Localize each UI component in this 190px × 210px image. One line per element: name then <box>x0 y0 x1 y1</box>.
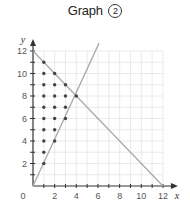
lattice-point <box>53 117 56 120</box>
lattice-point <box>42 106 45 109</box>
y-tick-label: 4 <box>22 136 27 146</box>
lattice-point <box>42 94 45 97</box>
x-tick-label: 12 <box>158 191 168 201</box>
lattice-point <box>42 72 45 75</box>
x-tick-label: 8 <box>117 191 122 201</box>
lattice-point <box>42 128 45 131</box>
x-axis-arrow-icon <box>171 183 178 189</box>
lattice-point <box>53 94 56 97</box>
y-tick-label: 2 <box>22 159 27 169</box>
x-tick-label: 10 <box>136 191 146 201</box>
x-tick-label: 4 <box>74 191 79 201</box>
x-tick-label: 0 <box>20 191 25 201</box>
graph-plot: 02468101224681012xy <box>0 0 190 210</box>
lattice-point <box>42 151 45 154</box>
y-tick-label: 10 <box>17 69 27 79</box>
lattice-point <box>53 139 56 142</box>
x-tick-label: 6 <box>95 191 100 201</box>
x-tick-label: 2 <box>52 191 57 201</box>
lattice-point <box>42 162 45 165</box>
y-axis-arrow-icon <box>30 39 36 46</box>
y-tick-label: 8 <box>22 91 27 101</box>
lattice-point <box>42 61 45 64</box>
lattice-point <box>42 117 45 120</box>
lattice-point <box>53 83 56 86</box>
lattice-point <box>53 72 56 75</box>
x-axis-label: x <box>174 190 180 201</box>
lattice-point <box>53 106 56 109</box>
y-tick-label: 6 <box>22 114 27 124</box>
lattice-point <box>42 139 45 142</box>
lattice-point <box>75 94 78 97</box>
lattice-point <box>64 106 67 109</box>
lattice-point <box>53 128 56 131</box>
lattice-point <box>42 83 45 86</box>
lattice-point <box>64 83 67 86</box>
y-tick-label: 12 <box>17 46 27 56</box>
lattice-point <box>64 94 67 97</box>
y-axis-label: y <box>20 34 26 45</box>
lattice-point <box>64 117 67 120</box>
